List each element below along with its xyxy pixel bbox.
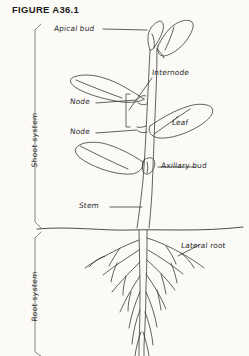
label-axillary-bud: Axillary bud [161,161,208,170]
leader-apical-bud [103,29,147,30]
figure-container: FIGURE A36.1 [0,0,249,356]
leader-node-upper [96,100,137,103]
leader-internode [129,78,152,110]
label-lateral-root: Lateral root [181,241,227,250]
label-leaf: Leaf [172,118,189,127]
label-shoot-system: Shoot system [30,112,39,168]
label-internode: Internode [152,68,190,77]
label-node-lower: Node [70,127,91,136]
label-apical-bud: Apical bud [54,24,95,33]
leader-node-lower [96,130,137,133]
label-root-system: Root system [30,271,39,322]
label-node-upper: Node [70,97,91,106]
label-stem: Stem [79,201,100,210]
